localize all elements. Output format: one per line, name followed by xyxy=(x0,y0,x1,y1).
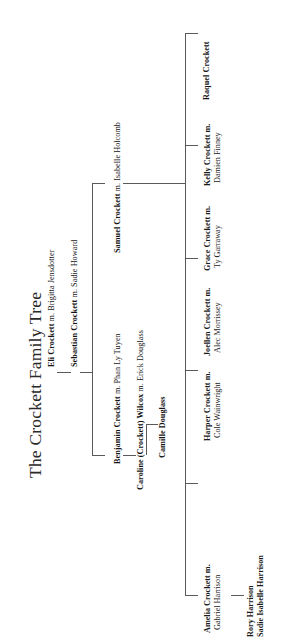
person-raquel-crockett: Raquel Crockett xyxy=(203,41,211,100)
person-sadie-isabelle-harrison: Sadie Isabelle Harrison xyxy=(256,555,266,637)
connector-sebastian-stem xyxy=(80,372,92,373)
person-spouse: Damien Finney xyxy=(213,124,223,186)
person-name: Eli Crockett xyxy=(47,324,56,367)
connector-eli-to-sebastian xyxy=(57,372,71,373)
person-caroline-crockett-wilcox: Caroline (Crockett) Wilcox m. Erick Doug… xyxy=(137,330,145,490)
connector-rail-to-harper xyxy=(185,483,198,484)
person-spouse: m. Erick Douglass xyxy=(136,330,145,394)
person-sebastian-crockett: Sebastian Crockett m. Sadie Howard xyxy=(71,240,79,367)
person-spouse: Gabriel Harrison xyxy=(213,564,223,633)
person-samuel-crockett: Samuel Crockett m. Isabelle Holcomb xyxy=(114,122,122,253)
person-name: Amelia Crockett m. xyxy=(203,564,213,633)
person-spouse: m. Brigitta Jensdotter xyxy=(47,250,56,324)
connector-rail-to-kelly xyxy=(185,145,198,146)
page-title: The Crockett Family Tree xyxy=(27,292,45,478)
connector-rail-to-raquel xyxy=(185,33,198,34)
connector-sibling-rail-gen6 xyxy=(185,33,186,595)
person-spouse: m. Isabelle Holcomb xyxy=(113,122,122,194)
connector-rail-to-benjamin xyxy=(92,455,105,456)
connector-amelia-to-children xyxy=(231,595,244,596)
connector-rail-to-amelia xyxy=(185,595,198,596)
person-name: Grace Crockett m. xyxy=(203,206,213,271)
person-grace-crockett: Grace Crockett m. Ty Garraway xyxy=(203,206,223,271)
person-name: Caroline (Crockett) Wilcox xyxy=(136,394,145,490)
person-eli-crockett: Eli Crockett m. Brigitta Jensdotter xyxy=(48,250,56,367)
person-kelly-crockett: Kelly Crockett m. Damien Finney xyxy=(203,124,223,186)
person-name: Kelly Crockett m. xyxy=(203,124,213,186)
person-camille-douglass: Camille Douglass xyxy=(159,396,167,458)
person-spouse: m. Phan Ly Tuyen xyxy=(113,333,122,396)
children-harrison: Rory Harrison Sadie Isabelle Harrison xyxy=(246,555,266,637)
person-name: Samuel Crockett xyxy=(113,194,122,254)
person-name: Harper Crockett m. xyxy=(203,372,213,442)
connector-caroline-to-camille xyxy=(146,424,158,425)
person-harper-crockett: Harper Crockett m. Cole Wainwright xyxy=(203,372,223,442)
person-amelia-crockett: Amelia Crockett m. Gabriel Harrison xyxy=(203,564,223,633)
person-name: Camille Douglass xyxy=(158,396,167,458)
person-spouse: m. Sadie Howard xyxy=(70,240,79,300)
connector-rail-to-grace xyxy=(185,258,198,259)
connector-samuel-stem xyxy=(123,183,185,184)
connector-rail-to-joellen xyxy=(185,370,198,371)
connector-benjamin-to-caroline xyxy=(123,455,136,456)
person-spouse: Alec Morrissey xyxy=(213,288,223,356)
person-name: Raquel Crockett xyxy=(202,41,211,100)
person-name: Joellen Crockett m. xyxy=(203,288,213,356)
connector-caroline-stem xyxy=(146,424,147,455)
person-name: Sebastian Crockett xyxy=(70,300,79,367)
person-name: Benjamin Crockett xyxy=(113,396,122,464)
person-spouse: Cole Wainwright xyxy=(213,372,223,442)
person-joellen-crockett: Joellen Crockett m. Alec Morrissey xyxy=(203,288,223,356)
person-benjamin-crockett: Benjamin Crockett m. Phan Ly Tuyen xyxy=(114,333,122,464)
connector-rail-to-samuel xyxy=(92,183,105,184)
person-rory-harrison: Rory Harrison xyxy=(246,555,256,637)
connector-sibling-rail-gen3 xyxy=(92,183,93,455)
person-spouse: Ty Garraway xyxy=(213,206,223,271)
